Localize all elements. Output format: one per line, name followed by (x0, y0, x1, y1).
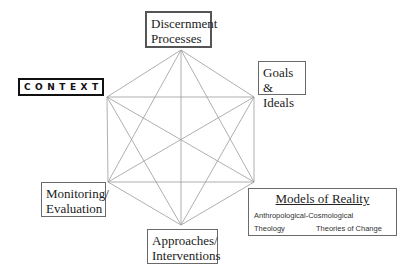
node-label-line: Approaches/ (152, 233, 217, 248)
edge-line (107, 97, 108, 182)
hexagon-edges (107, 50, 254, 225)
node-context: CONTEXT (18, 78, 104, 96)
node-models-of-reality: Models of Reality Anthropological-Cosmol… (248, 188, 397, 236)
models-item-anthropological-cosmological: Anthropological-Cosmological (254, 211, 353, 220)
edge-line (107, 50, 181, 97)
node-label-line: Processes (151, 31, 210, 46)
models-item-theories-of-change: Theories of Change (316, 224, 382, 233)
node-label-line: Monitoring/ (46, 186, 105, 201)
node-discernment-processes: Discernment Processes (145, 11, 212, 48)
node-label-line: Discernment (151, 16, 210, 31)
node-approaches-interventions: Approaches/ Interventions (147, 229, 218, 264)
context-label: CONTEXT (24, 82, 103, 92)
models-title: Models of Reality (249, 191, 396, 207)
edge-line (181, 182, 254, 225)
node-monitoring-evaluation: Monitoring/ Evaluation (41, 182, 106, 217)
node-label-line: Goals & (263, 65, 305, 95)
node-goals-ideals: Goals & Ideals (258, 61, 306, 95)
node-label-line: Ideals (263, 95, 305, 110)
node-label-line: Interventions (152, 248, 217, 263)
node-label-line: Evaluation (46, 201, 105, 216)
edge-line (108, 182, 181, 225)
edge-line (181, 50, 254, 97)
models-item-theology: Theology (254, 224, 285, 233)
